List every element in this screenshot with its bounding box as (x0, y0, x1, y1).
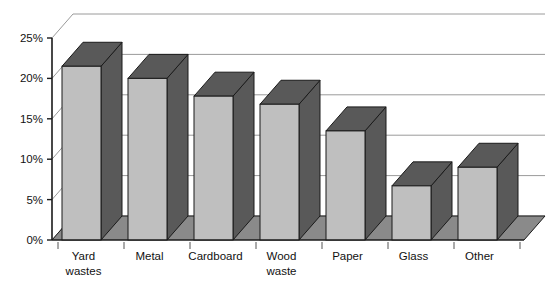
category-label: Cardboard (188, 250, 242, 262)
category-label: Wood (267, 250, 297, 262)
category-labels: YardwastesMetalCardboardWoodwastePaperGl… (65, 250, 494, 277)
bar-front-face (326, 131, 365, 240)
bar-front-face (260, 104, 299, 240)
bar-front-face (194, 96, 233, 240)
bar-front-face (458, 167, 497, 240)
y-axis-tick-label: 10% (20, 153, 43, 165)
gridline-depth (52, 14, 73, 38)
category-label: waste (265, 265, 296, 277)
bar (194, 72, 254, 240)
bar (458, 143, 518, 240)
bar (326, 107, 386, 240)
bar-front-face (128, 78, 167, 240)
bar-front-face (392, 186, 431, 240)
chart-container: 0%5%10%15%20%25% YardwastesMetalCardboar… (0, 0, 551, 284)
category-label: Paper (332, 250, 363, 262)
bar (128, 54, 188, 240)
bar-side-face (101, 42, 122, 240)
category-label: wastes (65, 265, 102, 277)
y-axis-tick-label: 20% (20, 72, 43, 84)
bar-side-face (299, 80, 320, 240)
bar-front-face (62, 66, 101, 240)
bar (62, 42, 122, 240)
bar-chart-3d: 0%5%10%15%20%25% YardwastesMetalCardboar… (0, 0, 551, 284)
category-label: Glass (399, 250, 429, 262)
category-label: Other (465, 250, 494, 262)
bar-side-face (167, 54, 188, 240)
category-label: Yard (72, 250, 95, 262)
y-axis-tick-label: 5% (26, 194, 43, 206)
category-ticks (58, 242, 520, 249)
y-axis-tick-labels: 0%5%10%15%20%25% (20, 32, 43, 246)
y-axis-tick-label: 15% (20, 113, 43, 125)
bar-side-face (233, 72, 254, 240)
bar (260, 80, 320, 240)
y-axis-tick-label: 0% (26, 234, 43, 246)
category-label: Metal (135, 250, 163, 262)
y-axis-tick-label: 25% (20, 32, 43, 44)
